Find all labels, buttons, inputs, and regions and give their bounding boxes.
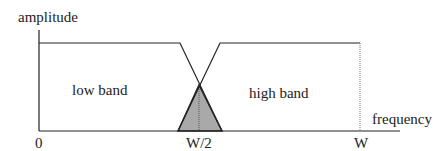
y-axis-label: amplitude [18,9,78,25]
tick-zero: 0 [35,135,43,151]
overlap-region [178,85,222,131]
tick-full: W [354,135,369,151]
low-band-label: low band [72,82,128,98]
high-band-label: high band [249,85,309,101]
filter-band-diagram: amplitude frequency low band high band 0… [0,0,447,151]
x-axis-label: frequency [372,111,432,127]
tick-half: W/2 [186,135,212,151]
